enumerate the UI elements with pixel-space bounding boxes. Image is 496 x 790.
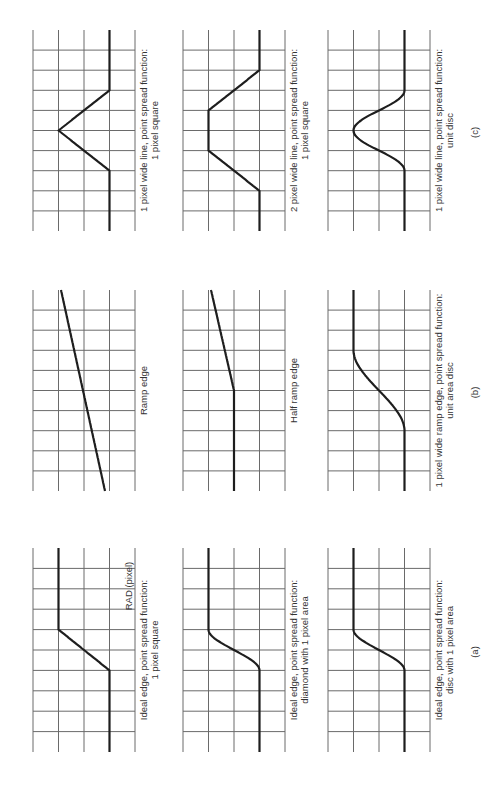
plot-panel-c-3: 1 pixel wide line, point spread function… — [328, 30, 455, 231]
figure-canvas: 1 pixel wide line, point spread function… — [0, 0, 496, 790]
panel-caption-line2: disc with 1 pixel area — [444, 605, 455, 694]
panel-caption: Half ramp edge — [288, 358, 299, 423]
subfigure-label-a: (a) — [469, 646, 480, 658]
panel-caption-line2: unit disc — [444, 113, 455, 148]
panel-caption: Ideal edge, point spread function: — [288, 580, 299, 721]
subfigure-label-c: (c) — [469, 127, 480, 138]
plot-panel-a-1: Ideal edge, point spread function:1 pixe… — [33, 548, 160, 752]
panel-caption-line2: 1 pixel square — [149, 620, 160, 679]
panel-caption: 2 pixel wide line, point spread function… — [288, 49, 299, 212]
plot-panel-c-1: 1 pixel wide line, point spread function… — [33, 30, 160, 231]
panel-caption-line2: 1 pixel square — [299, 101, 310, 160]
subfigure-label-b: (b) — [469, 387, 480, 399]
panel-caption: Ideal edge, point spread function: — [433, 580, 444, 721]
panel-caption: Ideal edge, point spread function: — [138, 580, 149, 721]
panel-caption-line2: unit area disc — [444, 362, 455, 419]
panel-caption-line2: 1 pixel square — [149, 101, 160, 160]
panel-caption: 1 pixel wide ramp edge, point spread fun… — [433, 294, 444, 488]
panel-caption: Ramp edge — [138, 366, 149, 415]
plot-panel-b-3: 1 pixel wide ramp edge, point spread fun… — [328, 290, 455, 491]
plot-panel-a-2: Ideal edge, point spread function:diamon… — [183, 548, 310, 752]
panel-caption: 1 pixel wide line, point spread function… — [138, 49, 149, 212]
plot-panel-b-1: Ramp edge — [33, 290, 149, 491]
panel-caption: 1 pixel wide line, point spread function… — [433, 49, 444, 212]
plot-panel-c-2: 2 pixel wide line, point spread function… — [183, 30, 310, 231]
plot-panel-b-2: Half ramp edge — [183, 290, 299, 491]
axis-annotation: RAD (pixel) — [123, 562, 134, 611]
panel-caption-line2: diamond with 1 pixel area — [299, 595, 310, 703]
plot-panel-a-3: Ideal edge, point spread function:disc w… — [328, 548, 455, 752]
